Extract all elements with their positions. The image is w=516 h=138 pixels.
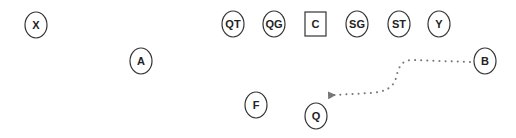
player-f[interactable]: F — [245, 92, 267, 118]
player-qg[interactable]: QG — [263, 11, 285, 37]
player-a[interactable]: A — [130, 48, 152, 74]
player-q-label: Q — [312, 110, 321, 122]
player-f-label: F — [253, 99, 260, 111]
player-x[interactable]: X — [25, 12, 47, 38]
player-sg-label: SG — [349, 18, 365, 30]
player-y[interactable]: Y — [428, 11, 450, 37]
player-qg-label: QG — [265, 18, 282, 30]
player-q[interactable]: Q — [305, 103, 327, 129]
player-qt[interactable]: QT — [222, 11, 244, 37]
player-y-label: Y — [435, 18, 443, 30]
player-c-label: C — [312, 18, 320, 30]
formation-diagram: X QT QG C SG ST Y A B F — [0, 0, 516, 138]
player-st-label: ST — [392, 18, 406, 30]
player-st[interactable]: ST — [388, 11, 410, 37]
player-b-label: B — [481, 55, 489, 67]
player-a-label: A — [137, 55, 145, 67]
player-c[interactable]: C — [305, 12, 326, 36]
route-b-motion — [334, 60, 470, 95]
player-sg[interactable]: SG — [346, 11, 368, 37]
player-x-label: X — [32, 19, 40, 31]
player-qt-label: QT — [225, 18, 241, 30]
player-b[interactable]: B — [474, 48, 496, 74]
